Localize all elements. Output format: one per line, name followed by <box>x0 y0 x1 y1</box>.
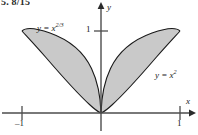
curve-label-x-two-thirds: y = x2/3 <box>37 23 63 33</box>
figure-container: 5. 8/15 y = x2/3 y = x2 y x 1 –1 1 <box>0 0 198 135</box>
y-tick-label-one: 1 <box>86 24 91 34</box>
y-axis-label: y <box>107 2 111 12</box>
x-axis-arrow <box>189 109 196 116</box>
x-tick-label-negative-one: –1 <box>15 118 24 128</box>
curve-label-x-squared: y = x2 <box>155 70 177 80</box>
graph-plot <box>0 0 198 135</box>
curve-label-x-squared-base: y = x <box>155 70 174 80</box>
x-axis-label: x <box>186 96 190 106</box>
curve-label-x-two-thirds-base: y = x <box>37 23 56 33</box>
y-axis-arrow <box>98 2 105 9</box>
curve-label-x-two-thirds-exponent: 2/3 <box>56 21 64 28</box>
curve-label-x-squared-exponent: 2 <box>174 68 177 75</box>
x-tick-label-positive-one: 1 <box>177 118 182 128</box>
shaded-region-left <box>22 28 101 113</box>
